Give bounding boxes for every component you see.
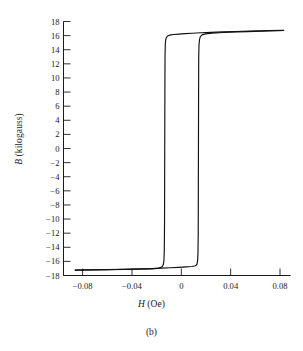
x-tick-label: −0.04 (122, 281, 143, 291)
y-axis-title: B (kilogauss) (14, 84, 24, 194)
y-tick-label: −4 (50, 172, 60, 182)
figure-hysteresis-loop: 181614121086420−2−4−6−8−10−12−14−16−18 −… (0, 0, 303, 351)
hysteresis-curves (75, 30, 283, 270)
y-axis-ticks: 181614121086420−2−4−6−8−10−12−14−16−18 (46, 17, 70, 281)
y-tick-label: 4 (55, 115, 60, 125)
curve-ascending-branch (75, 30, 283, 270)
y-axis-unit: (kilogauss) (14, 113, 24, 159)
y-tick-label: 8 (55, 87, 59, 97)
y-tick-label: −16 (46, 256, 60, 266)
axis-spines (64, 22, 291, 276)
y-tick-label: 0 (55, 144, 59, 154)
y-tick-label: 10 (51, 73, 60, 83)
y-tick-label: 2 (55, 129, 59, 139)
figure-caption: (b) (0, 327, 303, 337)
y-tick-label: 12 (51, 59, 60, 69)
y-tick-label: −8 (50, 200, 59, 210)
hysteresis-plot-svg: 181614121086420−2−4−6−8−10−12−14−16−18 −… (0, 0, 303, 303)
y-tick-label: −14 (46, 242, 60, 252)
y-tick-label: −18 (46, 271, 59, 281)
x-tick-label: −0.08 (73, 281, 93, 291)
y-axis-symbol: B (14, 159, 24, 165)
x-tick-label: 0.08 (272, 281, 287, 291)
y-tick-label: −2 (50, 158, 59, 168)
x-axis-title: H (Oe) (0, 299, 303, 309)
curve-descending-branch (75, 30, 283, 270)
y-tick-label: 18 (51, 17, 60, 27)
x-tick-label: 0.04 (223, 281, 239, 291)
plot-area: 181614121086420−2−4−6−8−10−12−14−16−18 −… (0, 0, 303, 303)
y-tick-label: −10 (46, 214, 59, 224)
y-tick-label: 14 (51, 45, 60, 55)
y-tick-label: −12 (46, 228, 59, 238)
y-tick-label: 16 (51, 31, 60, 41)
x-axis-ticks: −0.08−0.0400.040.08 (73, 269, 288, 291)
y-tick-label: 6 (55, 101, 60, 111)
x-axis-unit: (Oe) (145, 299, 165, 309)
x-axis-symbol: H (138, 299, 145, 309)
x-tick-label: 0 (179, 281, 183, 291)
y-tick-label: −6 (50, 186, 60, 196)
